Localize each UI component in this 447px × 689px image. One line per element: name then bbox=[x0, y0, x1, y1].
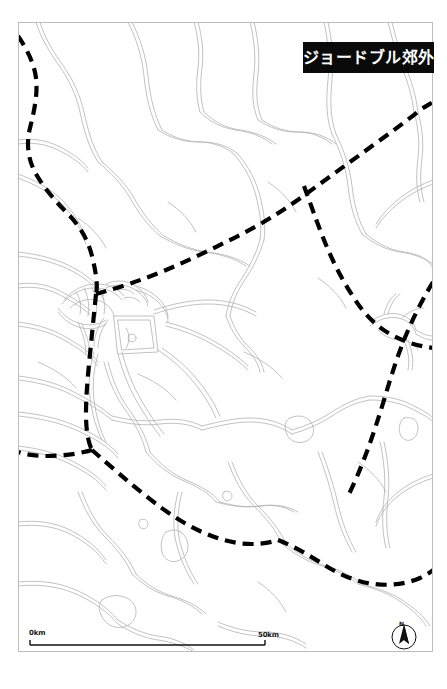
map-title-plate: ジョードブル郊外 bbox=[303, 42, 434, 73]
compass-rose bbox=[392, 624, 416, 649]
scale-end-label: 50km bbox=[258, 631, 279, 639]
map-page: ジョードブル郊外 0km 50km N bbox=[0, 0, 447, 689]
map-frame bbox=[18, 22, 433, 652]
map-canvas bbox=[18, 22, 433, 652]
scale-start-label: 0km bbox=[29, 629, 45, 637]
map-title: ジョードブル郊外 bbox=[303, 50, 435, 66]
compass-north-label: N bbox=[399, 620, 404, 627]
map-background bbox=[18, 22, 433, 652]
